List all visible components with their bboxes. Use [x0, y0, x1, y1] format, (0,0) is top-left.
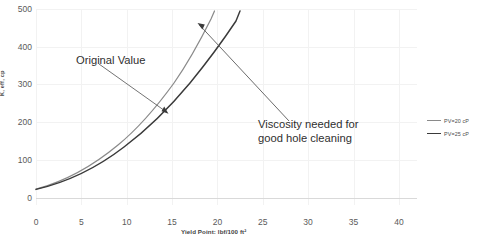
leader-line-viscosity [200, 25, 290, 121]
ytick-label-100: 100 [2, 156, 32, 165]
chart-figure: 500 400 300 200 100 0 0 5 10 15 20 25 30… [0, 0, 487, 247]
legend-swatch-icon-pv20 [427, 120, 441, 121]
series-line-pv20 [36, 11, 215, 189]
legend-label-pv20: PV=20 cP [444, 118, 469, 124]
xtick-label-10: 10 [112, 218, 142, 227]
legend-swatch-icon-pv25 [427, 133, 441, 135]
legend-label-pv25: PV=25 cP [444, 131, 469, 137]
chart-legend: PV=20 cP PV=25 cP [427, 114, 485, 140]
ytick-label-300: 300 [2, 80, 32, 89]
ytick-label-400: 400 [2, 43, 32, 52]
xtick-label-35: 35 [339, 218, 369, 227]
ytick-label-500: 500 [2, 5, 32, 14]
series-canvas [36, 9, 417, 205]
arrowhead-viscosity [198, 23, 205, 30]
xtick-label-5: 5 [66, 218, 96, 227]
plot-area: 500 400 300 200 100 0 0 5 10 15 20 25 30… [36, 9, 417, 205]
xtick-label-15: 15 [157, 218, 187, 227]
xtick-label-40: 40 [384, 218, 414, 227]
x-axis-title: Yield Point: lbf/100 ft² [181, 228, 246, 235]
xtick-label-20: 20 [202, 218, 232, 227]
xtick-label-30: 30 [293, 218, 323, 227]
legend-item-pv20[interactable]: PV=20 cP [427, 114, 485, 127]
legend-item-pv25[interactable]: PV=25 cP [427, 127, 485, 140]
series-line-pv25 [36, 11, 240, 189]
annotation-viscosity-line1: Viscosity needed for [258, 118, 359, 132]
annotation-viscosity-needed: Viscosity needed for good hole cleaning [258, 118, 359, 145]
leader-line-original-value [99, 64, 167, 112]
ytick-label-200: 200 [2, 118, 32, 127]
annotation-original-value: Original Value [76, 54, 145, 68]
y-axis-title: K, eff, cp [0, 70, 5, 96]
xtick-label-0: 0 [21, 218, 51, 227]
xtick-label-25: 25 [248, 218, 278, 227]
ytick-label-0: 0 [2, 194, 32, 203]
annotation-viscosity-line2: good hole cleaning [258, 132, 359, 146]
